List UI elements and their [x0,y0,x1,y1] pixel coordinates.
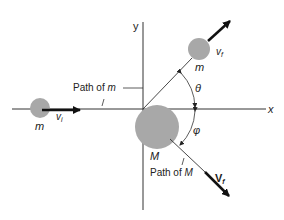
collision-diagram: y x vi m Path of m M vf m Vf Path of M θ… [0,0,284,220]
path-of-M-label: Path of M [150,167,193,178]
incoming-mass-label: m [35,120,44,132]
path-of-m-outgoing [143,58,192,109]
outgoing-mass-label: m [195,61,204,73]
theta-label: θ [195,82,201,94]
outgoing-mass-ball [188,38,210,60]
path-of-m-tick [102,99,104,106]
target-mass-label: M [150,150,160,162]
final-velocity-label-m: vf [216,46,224,58]
theta-arc [181,73,195,107]
final-velocity-label-M: Vf [215,172,225,185]
path-of-m-label: Path of m [73,82,116,93]
phi-label: φ [193,124,200,136]
y-axis-label: y [133,20,139,32]
final-velocity-arrow-m [208,21,230,41]
incoming-mass-ball [30,98,50,118]
x-axis-label: x [267,103,274,115]
path-of-M-tick [182,158,184,165]
target-mass-ball [135,105,179,149]
initial-velocity-label: vi [56,111,63,123]
